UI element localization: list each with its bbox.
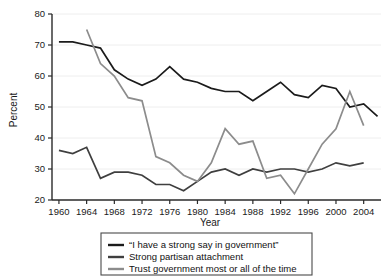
x-tick-label: 1972 — [131, 206, 152, 217]
x-tick-label: 1960 — [48, 206, 69, 217]
legend: “I have a strong say in government”Stron… — [101, 233, 312, 275]
y-axis-ticks: 20304050607080 — [34, 8, 52, 205]
x-tick-label: 1980 — [187, 206, 208, 217]
x-tick-label: 1988 — [242, 206, 263, 217]
x-tick-label: 1996 — [298, 206, 319, 217]
y-tick-label: 40 — [34, 132, 45, 143]
x-tick-label: 2004 — [353, 206, 374, 217]
legend-label-0: “I have a strong say in government” — [129, 239, 278, 250]
y-tick-label: 60 — [34, 70, 45, 81]
legend-label-1: Strong partisan attachment — [129, 251, 243, 262]
y-tick-label: 70 — [34, 39, 45, 50]
y-axis-title: Percent — [8, 93, 19, 128]
chart-container: 20304050607080 1960196419681972197619801… — [0, 0, 391, 278]
x-tick-label: 2000 — [325, 206, 346, 217]
y-tick-label: 50 — [34, 101, 45, 112]
line-chart: 20304050607080 1960196419681972197619801… — [0, 0, 391, 278]
x-tick-label: 1968 — [104, 206, 125, 217]
x-tick-label: 1964 — [76, 206, 97, 217]
series-line-0 — [59, 42, 378, 116]
x-tick-label: 1984 — [215, 206, 236, 217]
y-tick-label: 20 — [34, 194, 45, 205]
gridlines — [52, 14, 381, 169]
y-tick-label: 30 — [34, 163, 45, 174]
x-tick-label: 1976 — [159, 206, 180, 217]
x-axis-ticks: 1960196419681972197619801984198819921996… — [48, 200, 374, 217]
y-tick-label: 80 — [34, 8, 45, 19]
legend-label-2: Trust government most or all of the time — [129, 263, 297, 274]
x-tick-label: 1992 — [270, 206, 291, 217]
x-axis-title: Year — [200, 217, 221, 228]
